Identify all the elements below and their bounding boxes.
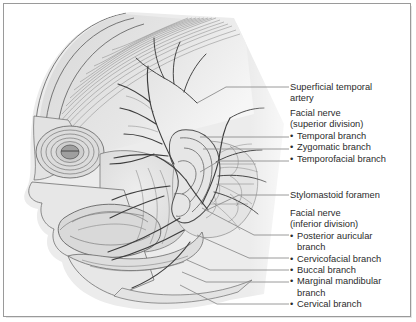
orbicularis-oris [58,204,161,257]
label-bullet-continuation: branch [290,288,412,299]
label-bullet-temporofacial-branch: Temporofacial branch [290,154,412,165]
label-line: Superficial temporal [290,82,412,93]
label-stylomastoid-foramen: Stylomastoid foramen [290,190,412,201]
label-bullet-marginal-mandibular-branch: Marginal mandibular [290,276,412,287]
orbicularis-oculi [36,126,104,178]
label-bullet-continuation: branch [290,242,412,253]
label-bullet-posterior-auricular-branch: Posterior auricular [290,231,412,242]
label-bullet-cervical-branch: Cervical branch [290,299,412,310]
head-anatomy-illustration [4,4,304,316]
label-heading-line: Facial nerve [290,208,412,219]
label-line: artery [290,93,412,104]
label-column: Superficial temporal artery Facial nerve… [290,4,412,316]
label-facial-nerve-superior-division: Facial nerve (superior division) Tempora… [290,108,412,165]
label-bullet-temporal-branch: Temporal branch [290,131,412,142]
label-bullet-buccal-branch: Buccal branch [290,265,412,276]
label-line: Stylomastoid foramen [290,190,412,201]
label-heading-line: (inferior division) [290,219,412,230]
label-heading-line: Facial nerve [290,108,412,119]
label-bullet-cervicofacial-branch: Cervicofacial branch [290,254,412,265]
label-superficial-temporal-artery: Superficial temporal artery [290,82,412,105]
label-facial-nerve-inferior-division: Facial nerve (inferior division) Posteri… [290,208,412,311]
art-body [4,4,304,316]
figure-frame: Superficial temporal artery Facial nerve… [3,3,411,317]
label-heading-line: (superior division) [290,119,412,130]
label-bullet-zygomatic-branch: Zygomatic branch [290,142,412,153]
